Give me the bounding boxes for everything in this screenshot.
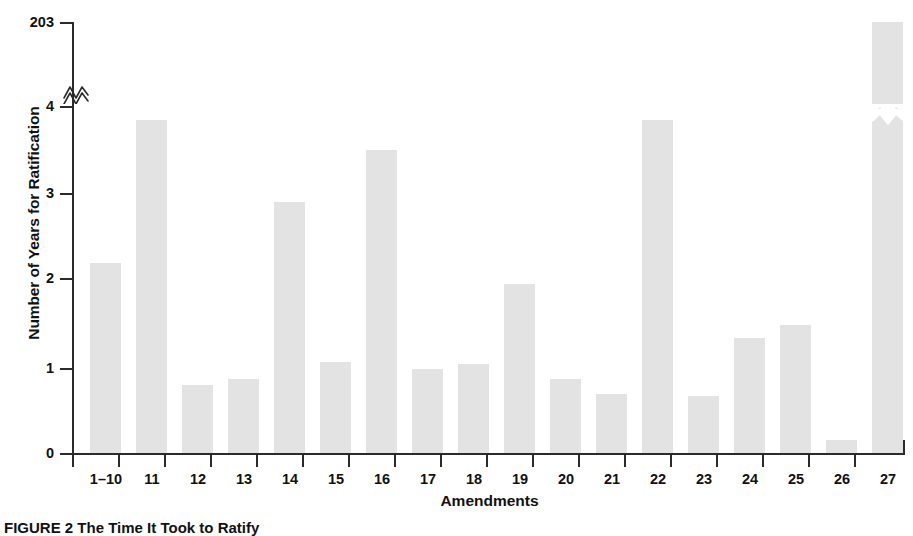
y-tick-label-1: 1	[0, 361, 54, 376]
figure-caption-label: FIGURE 2	[4, 519, 73, 536]
y-tick-4	[60, 106, 74, 108]
bar-21	[596, 394, 627, 453]
y-axis-title: Number of Years for Ratification	[25, 73, 43, 373]
x-tick-11	[578, 455, 580, 467]
y-tick-label-3: 3	[0, 186, 54, 201]
x-tick-0	[72, 455, 74, 467]
y-tick-1	[60, 368, 74, 370]
x-axis-line	[72, 453, 905, 455]
y-tick-2	[60, 278, 74, 280]
bar-17	[412, 369, 443, 453]
x-tick-5	[302, 455, 304, 467]
bar-14	[274, 202, 305, 453]
y-tick-3	[60, 193, 74, 195]
x-tick-15	[762, 455, 764, 467]
x-axis-right-cap	[903, 440, 905, 454]
figure-caption-text: The Time It Took to Ratify	[77, 519, 259, 536]
x-tick-10	[532, 455, 534, 467]
bar-16	[366, 150, 397, 453]
bar-27-break-icon	[872, 104, 903, 134]
bar-23	[688, 396, 719, 453]
x-tick-4	[256, 455, 258, 467]
x-tick-14	[716, 455, 718, 467]
bar-27-lower	[872, 130, 903, 453]
x-tick-8	[440, 455, 442, 467]
bar-26	[826, 440, 857, 453]
x-tick-13	[670, 455, 672, 467]
bar-24	[734, 338, 765, 453]
x-tick-12	[624, 455, 626, 467]
bar-22	[642, 120, 673, 453]
y-axis-break-icon	[62, 78, 92, 104]
bar-25	[780, 325, 811, 453]
x-axis-title: Amendments	[72, 492, 907, 510]
y-tick-label-2: 2	[0, 271, 54, 286]
bar-12	[182, 385, 213, 453]
bar-19	[504, 284, 535, 453]
bar-18	[458, 364, 489, 453]
bar-11	[136, 120, 167, 453]
figure-caption: FIGURE 2 The Time It Took to Ratify	[4, 519, 259, 536]
y-tick-label-4: 4	[0, 99, 54, 114]
x-tick-16	[808, 455, 810, 467]
bar-1-10	[90, 263, 121, 453]
x-tick-9	[486, 455, 488, 467]
x-tick-3	[210, 455, 212, 467]
bar-13	[228, 379, 259, 453]
x-tick-1	[118, 455, 120, 467]
bar-27-upper	[872, 22, 903, 109]
y-tick-203	[60, 22, 74, 24]
y-tick-label-0: 0	[0, 446, 54, 461]
plot-area: 0 1 2 3 4 203	[72, 8, 907, 456]
bar-15	[320, 362, 351, 453]
y-tick-label-203: 203	[0, 15, 54, 30]
x-tick-7	[394, 455, 396, 467]
x-tick-2	[164, 455, 166, 467]
x-tick-17	[854, 455, 856, 467]
bar-20	[550, 379, 581, 453]
x-axis-label-27: 27	[853, 472, 913, 487]
x-tick-6	[348, 455, 350, 467]
